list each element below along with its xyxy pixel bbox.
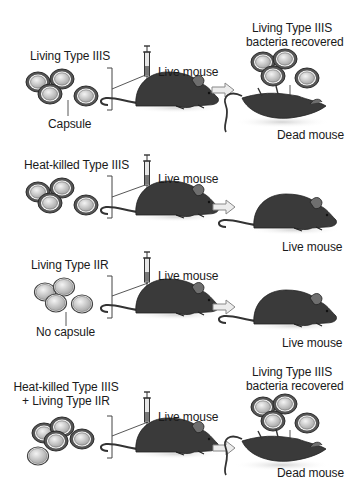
capsule-label: Capsule (48, 117, 91, 131)
injection-target-label: Live mouse (158, 65, 218, 79)
bracket (107, 68, 112, 110)
injected-label: Living Type IIR (31, 258, 109, 272)
row1-recovered-bacteria (251, 49, 319, 88)
row3-bacteria-cluster (35, 278, 93, 313)
no-capsule-label: No capsule (36, 325, 95, 339)
injected-label: Heat-killed Type IIIS (24, 158, 129, 172)
row1-bacteria-cluster (26, 69, 98, 106)
mouse-icon (219, 194, 340, 235)
injection-target-label: Live mouse (158, 172, 218, 186)
outcome-label: Live mouse (282, 336, 342, 350)
bracket (107, 176, 112, 218)
outcome-label: Live mouse (282, 240, 342, 254)
row2-bacteria-cluster (26, 178, 98, 215)
result-bacteria-label: Living Type IIIS bacteria recovered (246, 365, 338, 393)
mouse-icon (101, 279, 222, 320)
arrow-right-icon (213, 300, 235, 314)
injection-target-label: Live mouse (158, 410, 218, 424)
row4-recovered-bacteria (251, 394, 319, 433)
outcome-label: Dead mouse (277, 466, 344, 480)
mouse-icon (101, 418, 222, 459)
row4-bacteria-cluster (28, 417, 95, 465)
result-bacteria-label: Living Type IIIS bacteria recovered (246, 21, 338, 49)
mouse-icon (101, 181, 222, 222)
injected-label: Heat-killed Type IIIS + Living Type IIR (8, 380, 124, 408)
outcome-label: Dead mouse (277, 128, 344, 142)
injected-label: Living Type IIIS (30, 49, 110, 63)
injection-target-label: Live mouse (158, 269, 218, 283)
dead-mouse-icon (225, 86, 330, 132)
mouse-icon (219, 290, 340, 331)
